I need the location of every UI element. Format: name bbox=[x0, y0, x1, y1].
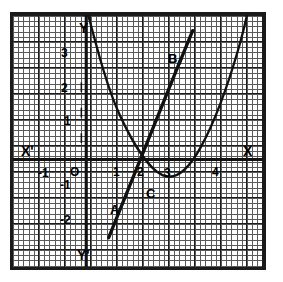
y-tick-label-neg2: -2 bbox=[60, 214, 71, 226]
x-tick-label-neg1: -1 bbox=[38, 167, 49, 179]
point-label-b: B bbox=[168, 52, 177, 65]
line-segment-lower bbox=[109, 59, 181, 238]
point-label-a: A bbox=[110, 203, 119, 216]
x-tick-label-1: 1 bbox=[113, 166, 120, 178]
y-tick-label-1: 1 bbox=[64, 115, 71, 127]
plot-frame: 3 2 1 -1 -2 -1 O 1 2 3 4 Y Y' X' X A B C bbox=[10, 12, 266, 270]
line-segment-upper bbox=[179, 31, 193, 64]
y-tick-label-neg1: -1 bbox=[60, 179, 71, 191]
x-axis-positive-label: X bbox=[243, 144, 252, 158]
x-tick-label-2: 2 bbox=[137, 166, 144, 178]
graph-figure: 3 2 1 -1 -2 -1 O 1 2 3 4 Y Y' X' X A B C bbox=[0, 0, 283, 282]
y-tick-label-3: 3 bbox=[61, 47, 68, 59]
x-axis-negative-label: X' bbox=[21, 144, 34, 158]
x-tick-label-3: 3 bbox=[164, 167, 171, 179]
y-axis-negative-label: Y' bbox=[77, 248, 90, 262]
x-tick-label-4: 4 bbox=[212, 166, 219, 178]
curves-layer bbox=[13, 15, 263, 267]
point-label-c: C bbox=[146, 187, 155, 200]
y-axis-positive-label: Y bbox=[79, 21, 88, 35]
origin-label: O bbox=[70, 166, 79, 178]
y-tick-label-2: 2 bbox=[61, 82, 68, 94]
